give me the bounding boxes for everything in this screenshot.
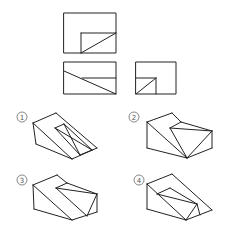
option-2[interactable]: 2	[129, 112, 212, 158]
side-view	[136, 62, 176, 94]
isometric-edge	[33, 113, 56, 123]
option-number-label: 4	[137, 177, 142, 185]
isometric-edge	[170, 122, 181, 128]
option-1[interactable]: 1	[17, 112, 97, 159]
option-number-label: 3	[20, 177, 24, 185]
front-view	[64, 62, 116, 94]
isometric-edge	[55, 128, 80, 155]
isometric-edge	[187, 148, 212, 158]
isometric-edge	[197, 204, 200, 215]
isometric-edge	[33, 175, 57, 185]
side-view-edge	[136, 78, 156, 94]
isometric-edge	[147, 113, 172, 122]
isometric-edge	[56, 113, 97, 148]
isometric-edge	[33, 185, 34, 209]
isometric-edge	[80, 150, 92, 155]
isometric-edge	[172, 113, 181, 122]
front-view-edge	[64, 71, 116, 94]
isometric-edge	[55, 124, 64, 128]
isometric-edge	[57, 175, 67, 183]
option-number-label: 2	[132, 114, 136, 122]
isometric-edge	[147, 174, 172, 184]
top-view	[64, 13, 116, 53]
diagram-canvas: 1 2 3 4	[0, 0, 236, 237]
option-4[interactable]: 4	[134, 174, 212, 220]
isometric-edge	[36, 144, 72, 159]
isometric-edge	[67, 183, 97, 194]
isometric-edge	[170, 128, 187, 158]
isometric-edge	[56, 183, 67, 188]
isometric-edge	[170, 188, 197, 204]
option-number-label: 1	[20, 114, 24, 122]
isometric-edge	[64, 124, 80, 155]
isometric-edge	[64, 124, 92, 150]
top-view-edge	[81, 33, 116, 53]
isometric-edge	[157, 188, 170, 194]
isometric-edge	[33, 123, 36, 144]
isometric-edge	[172, 174, 212, 210]
option-3[interactable]: 3	[17, 175, 97, 220]
isometric-edge	[187, 131, 212, 158]
